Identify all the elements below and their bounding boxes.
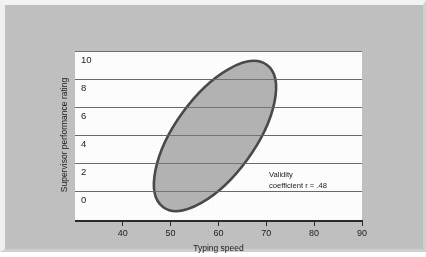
x-tick-label-80: 80 (309, 228, 319, 238)
y-tick-label-6: 6 (81, 110, 86, 121)
y-tick-label-4: 4 (81, 138, 86, 149)
y-axis-title: Supervisor performance rating (59, 78, 69, 193)
x-tick-label-50: 50 (166, 228, 176, 238)
x-axis-title: Typing speed (193, 243, 244, 253)
x-tick-label-40: 40 (118, 228, 128, 238)
x-tick-label-70: 70 (261, 228, 271, 238)
y-tick-label-10: 10 (81, 54, 92, 65)
x-tick-label-60: 60 (213, 228, 223, 238)
y-tick-label-0: 0 (81, 194, 86, 205)
correlation-scatter-chart: 40 50 60 70 80 90 10 8 6 4 2 0 Typing sp… (5, 5, 426, 257)
annotation-line-1: Validity (269, 170, 293, 179)
annotation-line-2: coefficient r = .48 (269, 181, 327, 190)
x-tick-label-90: 90 (357, 228, 367, 238)
y-tick-label-2: 2 (81, 166, 86, 177)
x-tick-labels: 40 50 60 70 80 90 (118, 228, 367, 238)
y-tick-label-8: 8 (81, 82, 86, 93)
